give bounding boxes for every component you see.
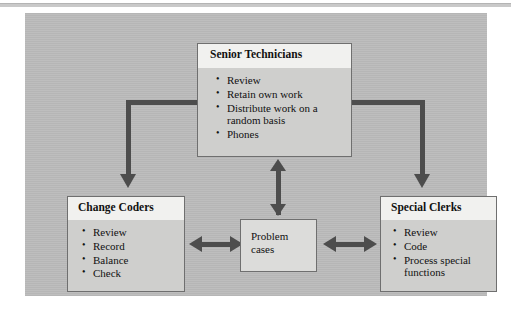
arrowhead-down-special-clerks-icon — [414, 174, 430, 188]
node-senior-technicians-body: Review Retain own work Distribute work o… — [198, 68, 351, 141]
node-change-coders-list: Review Record Balance Check — [82, 226, 178, 280]
arrowhead-left-change-coders-icon — [189, 236, 202, 252]
list-item: Distribute work on a random basis — [216, 102, 345, 128]
list-item: Retain own work — [216, 88, 345, 101]
node-problem-cases: Problem cases — [240, 219, 317, 272]
node-problem-cases-label: Problem cases — [241, 220, 316, 257]
node-problem-cases-line2: cases — [251, 243, 316, 256]
node-special-clerks-list: Review Code Process special functions — [393, 226, 492, 279]
list-item: Record — [82, 240, 178, 253]
list-item: Process special functions — [393, 254, 492, 280]
node-senior-technicians-list: Review Retain own work Distribute work o… — [216, 74, 345, 141]
connector-senior-to-special-clerks-vertical — [420, 100, 425, 176]
list-item: Phones — [216, 128, 345, 141]
connector-senior-to-special-clerks-horizontal — [352, 100, 425, 105]
list-item: Review — [82, 226, 178, 239]
node-senior-technicians: Senior Technicians Review Retain own wor… — [197, 43, 352, 157]
connector-senior-to-change-coders-vertical — [126, 100, 131, 176]
list-item: Code — [393, 240, 492, 253]
node-senior-technicians-title: Senior Technicians — [198, 44, 351, 68]
list-item: Balance — [82, 254, 178, 267]
node-change-coders-title: Change Coders — [68, 197, 184, 220]
list-item: Review — [393, 226, 492, 239]
arrowhead-down-change-coders-icon — [120, 174, 136, 188]
arrowhead-left-problem-cases-right-icon — [323, 236, 336, 252]
list-item: Check — [82, 267, 178, 280]
diagram-stage: Senior Technicians Review Retain own wor… — [0, 0, 511, 313]
top-divider-rule — [0, 3, 511, 7]
connector-senior-to-change-coders-horizontal — [126, 100, 198, 105]
arrowhead-right-special-clerks-icon — [364, 236, 377, 252]
diagram-panel: Senior Technicians Review Retain own wor… — [25, 13, 487, 296]
arrowhead-up-senior-icon — [270, 159, 286, 171]
node-change-coders-body: Review Record Balance Check — [68, 220, 184, 280]
list-item: Review — [216, 74, 345, 87]
connector-change-coders-to-problem-cases-shaft — [201, 242, 233, 247]
node-special-clerks-body: Review Code Process special functions — [381, 220, 496, 279]
connector-problem-cases-to-special-clerks-shaft — [335, 242, 367, 247]
node-special-clerks: Special Clerks Review Code Process speci… — [380, 196, 497, 292]
node-problem-cases-line1: Problem — [251, 230, 316, 243]
arrowhead-down-problem-cases-icon — [270, 204, 286, 216]
node-special-clerks-title: Special Clerks — [381, 197, 496, 220]
node-change-coders: Change Coders Review Record Balance Chec… — [67, 196, 185, 292]
